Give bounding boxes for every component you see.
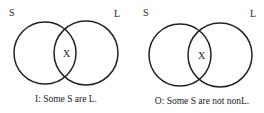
caption: I: Some S are L. <box>35 94 97 104</box>
caption: O: Some S are not nonL. <box>155 96 249 106</box>
venn-diagrams: S L X I: Some S are L. S L X O: Some S a… <box>0 0 264 113</box>
x-mark: X <box>198 50 206 61</box>
set-label-l: L <box>250 8 256 19</box>
set-label-s: S <box>9 7 15 18</box>
venn-diagram-O: S L X O: Some S are not nonL. <box>143 7 256 106</box>
x-mark: X <box>63 48 71 59</box>
set-label-s: S <box>143 7 149 18</box>
venn-diagram-I: S L X I: Some S are L. <box>9 7 120 104</box>
set-label-l: L <box>114 8 120 19</box>
